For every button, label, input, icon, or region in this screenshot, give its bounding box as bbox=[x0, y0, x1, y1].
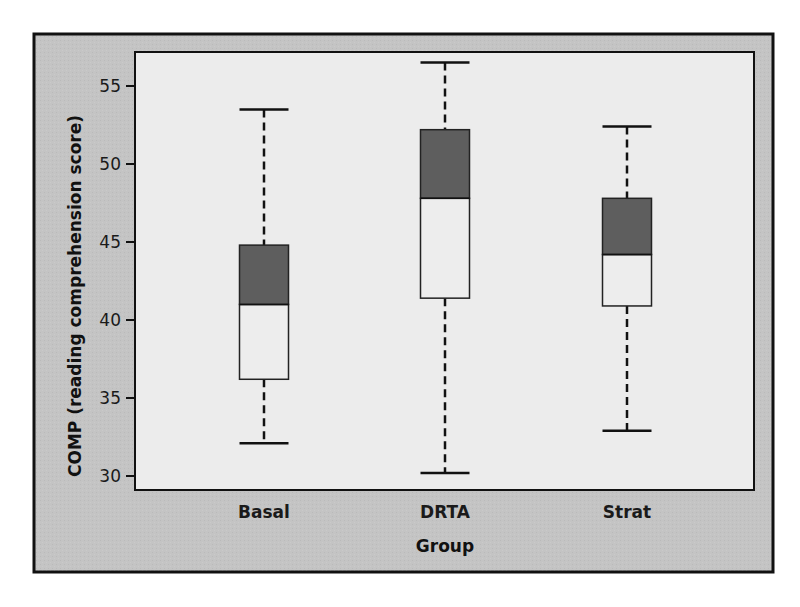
x-tick-label: Strat bbox=[603, 502, 651, 522]
figure-caption-cropped bbox=[30, 598, 770, 607]
y-tick-label: 45 bbox=[99, 232, 121, 252]
y-axis-title: COMP (reading comprehension score) bbox=[65, 115, 85, 477]
x-tick-label: Basal bbox=[238, 502, 290, 522]
y-tick-label: 30 bbox=[99, 466, 121, 486]
y-tick-label: 40 bbox=[99, 310, 121, 330]
upper-box bbox=[421, 130, 470, 199]
lower-box bbox=[240, 304, 289, 379]
y-tick-label: 50 bbox=[99, 154, 121, 174]
upper-box bbox=[603, 198, 652, 254]
y-tick-label: 55 bbox=[99, 76, 121, 96]
lower-box bbox=[603, 254, 652, 305]
upper-box bbox=[240, 245, 289, 304]
lower-box bbox=[421, 198, 470, 298]
x-axis-title: Group bbox=[416, 536, 474, 556]
x-tick-label: DRTA bbox=[420, 502, 471, 522]
boxplot-figure: 303540455055 BasalDRTAStrat COMP (readin… bbox=[0, 0, 800, 607]
y-tick-label: 35 bbox=[99, 388, 121, 408]
